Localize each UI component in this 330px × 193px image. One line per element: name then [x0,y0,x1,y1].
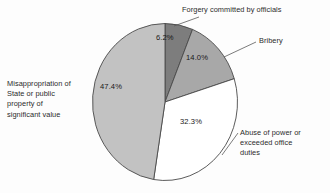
slice-value-forgery: 6.2% [156,33,174,42]
slice-value-misappropriation: 47.4% [100,82,122,91]
slice-value-abuse-of-power: 32.3% [180,117,202,126]
leader-line-forgery [174,17,199,26]
slice-label-misappropriation: Misappropriation of State or public prop… [7,79,91,120]
slice-label-bribery: Bribery [259,36,325,46]
pie-slice [93,24,165,180]
slice-label-abuse-of-power: Abuse of power or exceeded office duties [240,128,328,159]
pie-chart-figure: Forgery committed by officials Bribery A… [0,0,330,193]
pie-slices-group [93,24,238,181]
leader-line-bribery [224,42,256,57]
slice-value-bribery: 14.0% [186,53,208,62]
slice-label-forgery: Forgery committed by officials [182,5,328,15]
